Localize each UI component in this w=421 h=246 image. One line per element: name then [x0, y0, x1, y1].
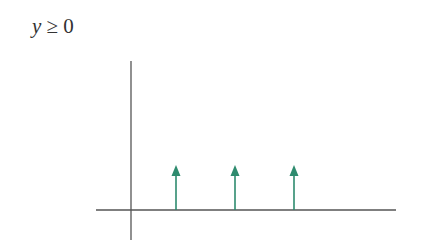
arrowhead-icon: [172, 165, 181, 176]
arrowhead-icon: [231, 165, 240, 176]
impulse-diagram: [0, 0, 421, 246]
impulse-arrows: [172, 165, 299, 210]
arrowhead-icon: [290, 165, 299, 176]
